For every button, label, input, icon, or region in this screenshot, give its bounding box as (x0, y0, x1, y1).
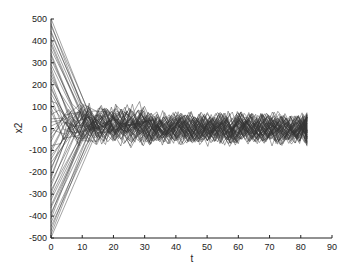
x-tick-label: 80 (296, 242, 306, 252)
y-axis-label: x2 (13, 122, 24, 133)
x-tick-label: 90 (327, 242, 337, 252)
x-tick-label: 10 (77, 242, 87, 252)
y-tick-label: 300 (32, 58, 47, 68)
x-tick-label: 50 (202, 242, 212, 252)
y-tick-label: -100 (29, 145, 47, 155)
x-axis-label: t (191, 253, 194, 264)
x-tick-label: 30 (140, 242, 150, 252)
y-tick-label: 0 (42, 124, 47, 134)
x-tick-label: 70 (265, 242, 275, 252)
x-tick-label: 20 (108, 242, 118, 252)
y-tick-label: -400 (29, 211, 47, 221)
y-tick-label: -200 (29, 167, 47, 177)
y-tick-label: -300 (29, 189, 47, 199)
y-tick-label: -500 (29, 233, 47, 243)
y-tick-label: 200 (32, 80, 47, 90)
line-chart: 01020304050607080905004003002001000-100-… (0, 0, 354, 273)
x-tick-label: 40 (171, 242, 181, 252)
y-tick-label: 400 (32, 36, 47, 46)
x-tick-label: 0 (48, 242, 53, 252)
data-lines (51, 19, 307, 238)
x-tick-label: 60 (233, 242, 243, 252)
y-tick-label: 500 (32, 14, 47, 24)
y-tick-label: 100 (32, 102, 47, 112)
